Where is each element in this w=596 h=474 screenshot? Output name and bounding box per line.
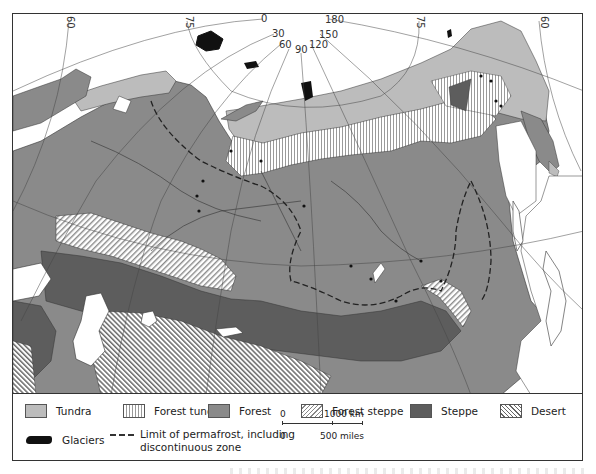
scale-km-end: 1000 km <box>324 409 364 419</box>
meridian-label-180: 180 <box>325 15 344 25</box>
map-graphic <box>13 14 583 394</box>
meridian-label-120: 120 <box>309 40 328 50</box>
legend-label-desert: Desert <box>531 405 566 417</box>
legend-label-tundra: Tundra <box>56 405 92 417</box>
permafrost-line-1: Limit of permafrost, including <box>140 428 295 441</box>
glacier-franz-josef <box>196 31 223 51</box>
scale-line <box>282 423 362 424</box>
legend-label-permafrost: Limit of permafrost, including discontin… <box>140 428 295 454</box>
scale-mi-end: 500 miles <box>320 431 364 441</box>
scale-tick-mid <box>332 421 333 425</box>
meridian-label-150: 150 <box>319 30 338 40</box>
meridian-label-60: 60 <box>279 40 292 50</box>
legend-item-desert: Desert <box>500 404 566 418</box>
legend-label-glaciers: Glaciers <box>62 434 104 446</box>
desert-swatch <box>500 404 522 418</box>
scale-tick-start <box>282 421 283 425</box>
glacier-icon <box>26 436 52 444</box>
legend-item-forest: Forest <box>208 404 271 418</box>
scale-tick-end <box>362 421 363 425</box>
scale-mi-zero: 0 <box>280 431 286 441</box>
forest-tundra-swatch <box>123 404 145 418</box>
meridian-label-30: 30 <box>272 29 285 39</box>
meridian-label-90: 90 <box>295 45 308 55</box>
legend-item-glaciers: Glaciers <box>26 434 104 446</box>
legend-item-tundra: Tundra <box>25 404 92 418</box>
forest-swatch <box>208 404 230 418</box>
parallel-label-60-right: 60 <box>539 16 549 29</box>
parallel-label-75-left: 75 <box>184 16 194 29</box>
legend-item-permafrost: Limit of permafrost, including discontin… <box>110 428 295 454</box>
scale-bar: 0 1000 km 0 500 miles <box>280 409 420 449</box>
glacier-severnaya <box>244 61 259 69</box>
legend-label-steppe: Steppe <box>441 405 478 417</box>
tundra-swatch <box>25 404 47 418</box>
legend-item-steppe: Steppe <box>410 404 478 418</box>
cut-off-caption-fragment <box>230 468 590 474</box>
permafrost-line-2: discontinuous zone <box>140 441 295 454</box>
vegetation-map: 0 30 60 90 120 150 180 60 75 75 60 <box>12 13 583 394</box>
parallel-label-75-right: 75 <box>415 16 425 29</box>
meridian-label-0: 0 <box>261 14 267 24</box>
legend-label-forest: Forest <box>239 405 271 417</box>
parallel-label-60-left: 60 <box>65 16 75 29</box>
glacier-wrangel <box>447 29 452 38</box>
scale-km-zero: 0 <box>280 409 286 419</box>
dashed-line-icon <box>110 434 134 436</box>
